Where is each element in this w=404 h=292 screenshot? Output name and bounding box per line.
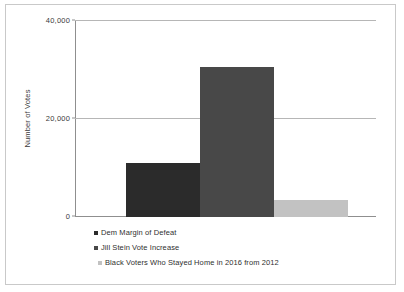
legend-swatch-icon [94, 246, 98, 250]
legend-item-dem-margin-of-defeat[interactable]: Dem Margin of Defeat [94, 225, 384, 240]
y-tick-mark-20000 [72, 118, 75, 119]
bar-black-voters-stayed-home[interactable] [274, 200, 348, 217]
y-tick-label-20000: 20,000 [46, 114, 70, 123]
legend-item-label: Dem Margin of Defeat [101, 228, 176, 237]
bar-dem-margin-of-defeat[interactable] [126, 163, 200, 217]
legend-item-jill-stein-vote-increase[interactable]: Jill Stein Vote Increase [94, 240, 384, 255]
y-axis-title: Number of Votes [20, 20, 34, 217]
y-tick-label-40000: 40,000 [46, 16, 70, 25]
legend-item-label: Black Voters Who Stayed Home in 2016 fro… [105, 258, 279, 267]
y-tick-mark-0 [72, 216, 75, 217]
bar-jill-stein-vote-increase[interactable] [200, 67, 274, 217]
chart-legend: Dem Margin of Defeat Jill Stein Vote Inc… [94, 225, 384, 270]
gridline-40000 [75, 20, 376, 21]
chart-figure: Number of Votes 40,000 20,000 0 Dem Marg… [5, 4, 396, 285]
y-tick-label-0: 0 [66, 212, 70, 221]
legend-item-black-voters-stayed-home[interactable]: Black Voters Who Stayed Home in 2016 fro… [94, 255, 384, 270]
y-tick-mark-40000 [72, 20, 75, 21]
plot-area: 40,000 20,000 0 [75, 20, 376, 217]
legend-swatch-icon [94, 231, 98, 235]
legend-swatch-icon [98, 261, 102, 265]
legend-item-label: Jill Stein Vote Increase [101, 243, 179, 252]
